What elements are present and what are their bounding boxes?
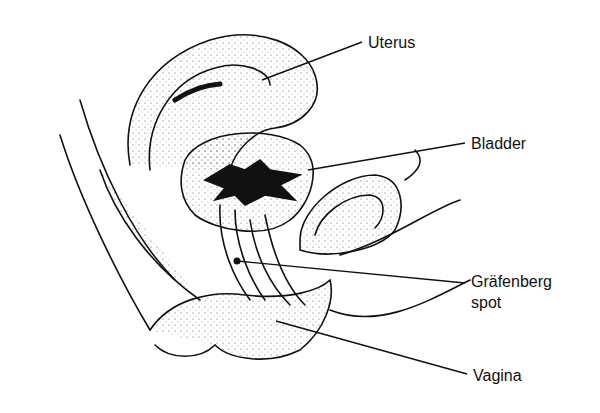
label-vagina: Vagina [473, 366, 522, 385]
anatomy-drawing [0, 0, 600, 413]
label-uterus: Uterus [368, 33, 415, 52]
diagram-canvas: Uterus Bladder Gräfenberg spot Vagina [0, 0, 600, 413]
label-bladder: Bladder [471, 134, 526, 153]
label-g-spot: Gräfenberg [471, 272, 552, 291]
label-g-spot-line2: spot [471, 293, 501, 312]
